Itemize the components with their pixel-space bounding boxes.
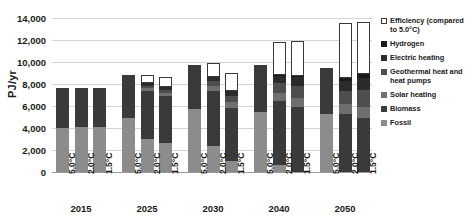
bar-segment xyxy=(159,96,172,143)
legend-swatch-icon xyxy=(381,41,387,47)
bar-segment xyxy=(273,83,286,93)
bar-series-area xyxy=(52,18,372,172)
legend-swatch-icon xyxy=(381,69,387,75)
bar-segment xyxy=(291,98,304,107)
bar-segment xyxy=(56,88,69,128)
x-axis-group-label: 2030 xyxy=(202,203,223,214)
bar-2050-2[interactable] xyxy=(339,23,352,172)
bar-segment xyxy=(320,68,333,114)
x-axis-tick-label-text: 5.0°C xyxy=(265,153,275,174)
legend-item[interactable]: Efficiency (compared to 5.0°C) xyxy=(381,16,472,34)
legend-swatch-icon xyxy=(381,106,387,112)
bar-segment xyxy=(159,77,172,87)
bar-segment xyxy=(141,75,154,83)
y-axis-tick-label: 0 xyxy=(41,167,46,178)
bar-segment xyxy=(273,42,286,75)
legend-item-label: Solar heating xyxy=(390,90,436,99)
bar-segment xyxy=(291,41,304,76)
x-axis-tick-label-text: 2.0°C xyxy=(284,153,294,174)
legend-item-label: Electric heating xyxy=(390,53,444,62)
bar-segment xyxy=(291,77,304,86)
bar-segment xyxy=(339,23,352,78)
x-axis-tick-label-text: 5.0°C xyxy=(133,153,143,174)
bar-segment xyxy=(207,63,220,77)
plot-area xyxy=(52,18,372,172)
legend-swatch-icon xyxy=(381,120,387,126)
bar-segment xyxy=(207,91,220,147)
y-axis-tick-label: 4,000 xyxy=(22,123,46,134)
legend-item[interactable]: Biomass xyxy=(381,104,472,113)
bar-segment xyxy=(122,75,135,118)
x-axis-tick-label-text: 5.0°C xyxy=(199,153,209,174)
x-axis-tick-label-text: 1.5°C xyxy=(236,153,246,174)
x-axis-tick-label-text: 2.0°C xyxy=(350,153,360,174)
x-axis-group-labels: 20152025203020402050 xyxy=(52,203,372,217)
bar-segment xyxy=(254,65,267,112)
bar-segment xyxy=(225,73,238,91)
legend-item-label: Hydrogen xyxy=(390,39,424,48)
x-axis-tick-label-text: 5.0°C xyxy=(331,153,341,174)
bar-segment xyxy=(75,88,88,128)
y-axis-tick-label: 8,000 xyxy=(22,79,46,90)
y-axis-tick-label: 10,000 xyxy=(17,57,46,68)
x-axis-tick-labels: 5.0°C2.0°C1.5°C5.0°C2.0°C1.5°C5.0°C2.0°C… xyxy=(52,174,372,204)
x-axis-group-label: 2050 xyxy=(334,203,355,214)
bar-segment xyxy=(273,76,286,83)
legend-item-label: Efficiency (compared to 5.0°C) xyxy=(390,16,472,34)
legend-item-label: Fossil xyxy=(390,118,411,127)
x-axis-tick-label-text: 5.0°C xyxy=(67,153,77,174)
legend-swatch-icon xyxy=(381,55,387,61)
x-axis-tick-label-text: 1.5°C xyxy=(368,153,378,174)
bar-segment xyxy=(357,22,370,74)
y-axis-tick-labels: 02,0004,0006,0008,00010,00012,00014,000 xyxy=(0,18,48,172)
bar-segment xyxy=(339,91,352,105)
x-axis-tick-label-text: 1.5°C xyxy=(104,153,114,174)
legend-item-label: Biomass xyxy=(390,104,420,113)
legend-swatch-icon xyxy=(381,92,387,98)
legend-item[interactable]: Electric heating xyxy=(381,53,472,62)
legend-item[interactable]: Geothermal heat and heat pumps xyxy=(381,67,472,85)
x-axis-group-label: 2040 xyxy=(268,203,289,214)
x-axis-tick-label-text: 1.5°C xyxy=(302,153,312,174)
bar-2050-1.5[interactable] xyxy=(357,22,370,172)
bar-segment xyxy=(339,104,352,114)
x-axis-tick-label-text: 1.5°C xyxy=(170,153,180,174)
bar-segment xyxy=(93,88,106,128)
x-axis-group-label: 2015 xyxy=(70,203,91,214)
bar-segment xyxy=(357,90,370,107)
y-axis-tick-label: 6,000 xyxy=(22,101,46,112)
y-axis-tick-label: 2,000 xyxy=(22,145,46,156)
bar-segment xyxy=(339,81,352,91)
legend-item[interactable]: Hydrogen xyxy=(381,39,472,48)
legend-item-label: Geothermal heat and heat pumps xyxy=(390,67,472,85)
bar-segment xyxy=(357,78,370,90)
chart-container: PJ/yr 02,0004,0006,0008,00010,00012,0001… xyxy=(0,0,472,223)
x-axis-tick-label-text: 2.0°C xyxy=(86,153,96,174)
bar-segment xyxy=(188,65,201,108)
gridline xyxy=(52,172,372,173)
bar-segment xyxy=(291,86,304,98)
bar-segment xyxy=(357,107,370,118)
y-axis-tick-label: 14,000 xyxy=(17,13,46,24)
legend-swatch-icon xyxy=(381,18,387,24)
bar-segment xyxy=(273,93,286,101)
x-axis-group-label: 2025 xyxy=(136,203,157,214)
chart-legend: Efficiency (compared to 5.0°C)HydrogenEl… xyxy=(381,16,472,132)
legend-item[interactable]: Fossil xyxy=(381,118,472,127)
bar-segment xyxy=(225,96,238,103)
legend-item[interactable]: Solar heating xyxy=(381,90,472,99)
x-axis-tick-label-text: 2.0°C xyxy=(218,153,228,174)
bar-segment xyxy=(141,91,154,139)
x-axis-tick-label-text: 2.0°C xyxy=(152,153,162,174)
y-axis-tick-label: 12,000 xyxy=(17,35,46,46)
